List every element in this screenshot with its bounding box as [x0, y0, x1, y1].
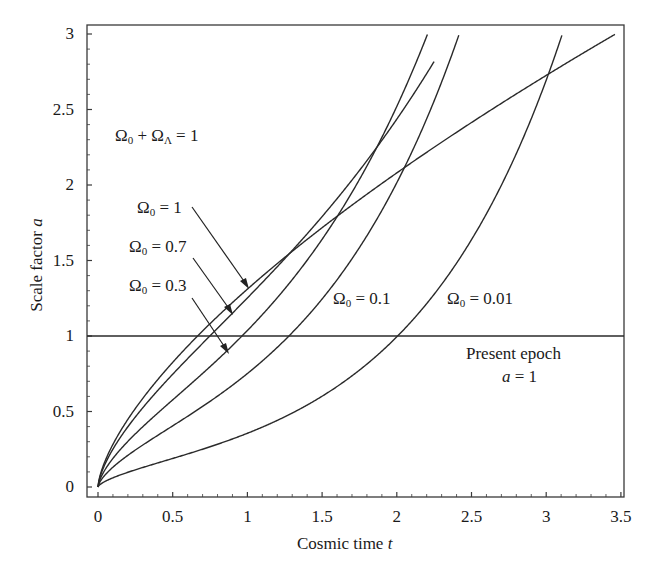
constraint-annotation: Ω0 + ΩΛ = 1	[115, 127, 198, 146]
x-tick-label: 1.5	[311, 507, 332, 527]
curve-00.01	[98, 35, 562, 487]
y-axis-title: Scale factor a	[27, 218, 47, 311]
label-omega-0.01: Ω0 = 0.01	[447, 290, 513, 309]
x-tick-label: 3.5	[610, 507, 631, 527]
x-axis-variable: t	[388, 534, 393, 553]
curve-00.3	[98, 34, 427, 487]
y-tick-label: 0	[0, 477, 74, 497]
y-tick-label: 3	[0, 24, 74, 44]
x-tick-label: 0	[94, 507, 103, 527]
x-tick-label: 2.5	[461, 507, 482, 527]
x-tick-label: 3	[542, 507, 551, 527]
label-omega-0.3: Ω0 = 0.3	[129, 277, 186, 296]
present-epoch-label: Present epoch	[466, 345, 561, 362]
y-axis-variable: a	[27, 218, 46, 227]
scale-factor-chart: 00.511.522.53 00.511.522.533.5 Cosmic ti…	[0, 0, 656, 575]
x-tick-label: 1	[243, 507, 252, 527]
label-omega-0.1: Ω0 = 0.1	[333, 290, 390, 309]
x-tick-label: 0.5	[162, 507, 183, 527]
y-tick-label: 0.5	[0, 402, 74, 422]
curves	[98, 34, 615, 487]
axis-ticks	[87, 34, 621, 497]
axes-frame-rect	[87, 25, 624, 497]
axes-frame	[87, 25, 624, 497]
label-omega-0.7: Ω0 = 0.7	[129, 238, 186, 257]
annotation-arrows	[192, 207, 249, 354]
y-tick-label: 2	[0, 175, 74, 195]
plot-area	[0, 0, 656, 575]
present-epoch-value: a = 1	[502, 368, 537, 385]
arrowhead-icon	[240, 278, 249, 289]
x-axis-label: Cosmic time	[297, 534, 388, 553]
arrow-omega-03	[192, 298, 226, 349]
y-tick-label: 1	[0, 326, 74, 346]
label-omega-1: Ω0 = 1	[137, 199, 182, 218]
x-tick-label: 2	[393, 507, 402, 527]
arrow-omega-07	[193, 258, 230, 310]
y-tick-label: 2.5	[0, 100, 74, 120]
arrow-omega-1	[192, 207, 246, 284]
y-axis-label: Scale factor	[27, 227, 46, 312]
x-axis-title: Cosmic time t	[297, 534, 392, 554]
